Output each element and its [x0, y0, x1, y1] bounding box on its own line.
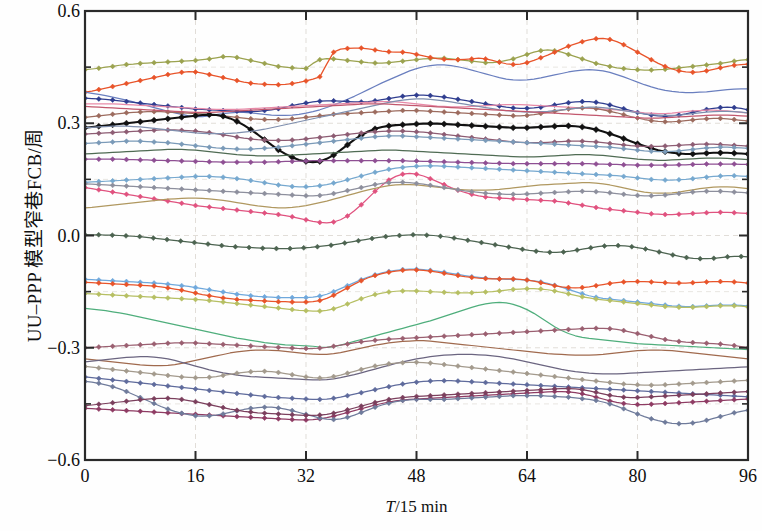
series-line — [83, 232, 749, 261]
x-tick-label: 16 — [166, 466, 226, 487]
x-tick-label: 64 — [497, 466, 557, 487]
x-tick-label: 48 — [387, 466, 447, 487]
gridlines — [85, 11, 748, 460]
chart-figure: UU–PPP 模型窄巷FCB/周 0.60.30.0−0.3−0.6 T/15 … — [0, 0, 762, 531]
x-tick-label: 96 — [718, 466, 762, 487]
x-tick-label: 32 — [276, 466, 336, 487]
x-tick-label: 0 — [55, 466, 115, 487]
plot-canvas — [0, 0, 762, 531]
x-tick-label: 80 — [608, 466, 668, 487]
series-line — [85, 354, 748, 379]
